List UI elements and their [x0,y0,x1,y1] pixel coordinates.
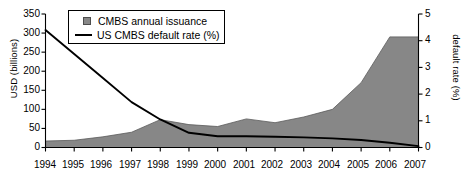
legend-item-line: US CMBS default rate (%) [75,28,218,42]
chart-legend: CMBS annual issuance US CMBS default rat… [68,10,225,44]
line-swatch-icon [75,34,92,36]
legend-label: CMBS annual issuance [98,15,207,27]
chart-figure: USD (billions) default rate (%) 350 300 … [0,0,468,182]
square-swatch-icon [83,17,91,25]
legend-label: US CMBS default rate (%) [97,29,220,41]
legend-item-area: CMBS annual issuance [75,14,218,28]
area-series-cmbs-issuance [46,37,419,148]
